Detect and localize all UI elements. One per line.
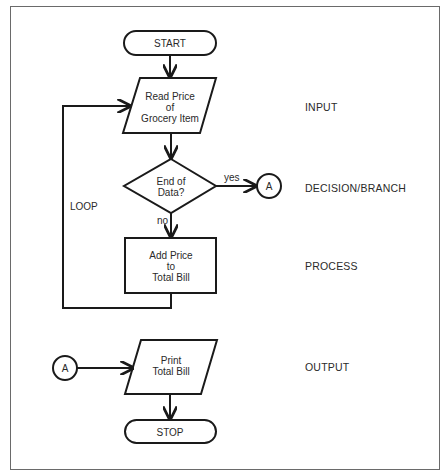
output-label: Print Total Bill <box>152 355 189 377</box>
flowchart-canvas <box>0 0 447 475</box>
stop-label: STOP <box>156 427 183 438</box>
yes-label: yes <box>224 172 240 183</box>
side-label-decision: DECISION/BRANCH <box>305 182 406 194</box>
no-label: no <box>157 215 168 226</box>
loop-label: LOOP <box>70 201 98 212</box>
start-label: START <box>154 38 186 49</box>
side-label-output: OUTPUT <box>305 361 349 373</box>
side-label-process: PROCESS <box>305 260 358 272</box>
process-label: Add Price to Total Bill <box>149 250 192 283</box>
connector-a-out-label: A <box>266 181 273 192</box>
side-label-input: INPUT <box>305 101 338 113</box>
connector-a-in-label: A <box>62 363 69 374</box>
decision-label: End of Data? <box>157 176 186 198</box>
input-label: Read Price of Grocery Item <box>141 91 199 124</box>
